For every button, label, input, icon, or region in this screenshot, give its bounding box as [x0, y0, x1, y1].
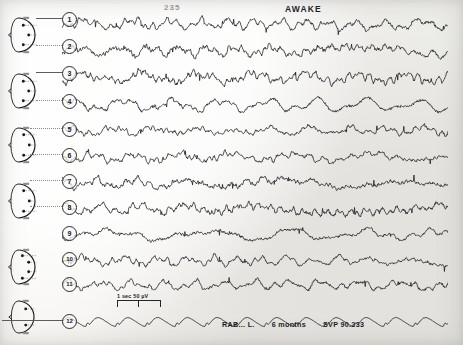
montage-head-5 [6, 238, 52, 296]
record-caption: RAB... L. 6 months SVP 90.233 [222, 320, 364, 329]
leader-line-8 [30, 206, 62, 207]
channel-number-7: 7 [62, 174, 77, 189]
montage-head-6 [6, 298, 52, 336]
channel-number-3: 3 [62, 66, 77, 81]
leader-line-3 [36, 72, 62, 73]
eeg-trace-channel-11 [62, 278, 448, 292]
eeg-trace-channel-6 [62, 149, 448, 164]
eeg-trace-channel-7 [62, 175, 448, 191]
caption-age: 6 months [272, 320, 306, 329]
montage-head-2 [6, 68, 52, 114]
montage-diagram-column [0, 0, 58, 345]
channel-number-12: 12 [62, 314, 77, 329]
leader-line-2 [36, 45, 62, 46]
eeg-trace-channel-8 [62, 201, 448, 217]
leader-line-1 [36, 18, 62, 19]
calibration-tick [160, 300, 161, 307]
channel-number-4: 4 [62, 94, 77, 109]
eeg-trace-channel-2 [62, 43, 448, 59]
calibration-tick [138, 300, 139, 307]
leader-line-4 [36, 100, 62, 101]
leader-line-7 [30, 180, 62, 181]
leader-line-5 [30, 128, 62, 129]
eeg-trace-channel-1 [62, 15, 448, 34]
calibration-rule [117, 300, 161, 301]
montage-head-4 [6, 178, 52, 224]
channel-number-8: 8 [62, 200, 77, 215]
eeg-trace-channel-5 [62, 124, 448, 137]
calibration-label: 1 sec 50 µV [117, 294, 161, 299]
channel-number-2: 2 [62, 39, 77, 54]
eeg-trace-channel-9 [62, 227, 448, 243]
channel-number-5: 5 [62, 122, 77, 137]
eeg-recording-page: 235 AWAKE [0, 0, 463, 345]
channel-number-11: 11 [62, 277, 77, 292]
leader-line-12 [2, 320, 62, 321]
eeg-trace-channel-4 [62, 97, 448, 113]
channel-number-1: 1 [62, 12, 77, 27]
calibration-tick [117, 300, 118, 307]
caption-subject: RAB... L. [222, 320, 255, 329]
caption-record-id: SVP 90.233 [323, 320, 364, 329]
eeg-trace-channel-10 [62, 253, 448, 271]
channel-number-6: 6 [62, 148, 77, 163]
leader-line-6 [30, 154, 62, 155]
channel-number-10: 10 [62, 252, 77, 267]
calibration-bar: 1 sec 50 µV [117, 294, 161, 301]
eeg-trace-channel-3 [62, 68, 448, 87]
channel-number-9: 9 [62, 226, 77, 241]
